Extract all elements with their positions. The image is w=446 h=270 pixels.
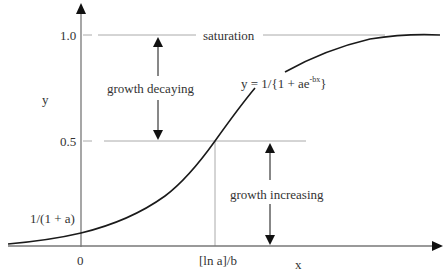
growth-decaying-label: growth decaying xyxy=(107,82,194,95)
y-intercept-label: 1/(1 + a) xyxy=(30,212,75,225)
arrow-up-icon xyxy=(153,37,163,47)
y-tick-0-5: 0.5 xyxy=(60,135,76,148)
y-tick-1: 1.0 xyxy=(60,29,76,42)
arrow-down-icon xyxy=(265,235,275,245)
saturation-label: saturation xyxy=(203,29,254,42)
x-tick-0: 0 xyxy=(77,254,84,267)
y-axis-arrow-icon xyxy=(76,3,86,14)
growth-increasing-label: growth increasing xyxy=(230,188,324,201)
x-axis-arrow-icon xyxy=(432,241,443,251)
equation-suffix: } xyxy=(320,76,326,91)
y-axis-label: y xyxy=(42,93,49,106)
equation-exponent: -bx xyxy=(310,75,321,84)
arrow-down-icon xyxy=(153,130,163,140)
x-tick-inflection: [ln a]/b xyxy=(199,254,237,267)
equation-prefix: y = 1/{1 + ae xyxy=(241,76,310,91)
equation-label: y = 1/{1 + ae-bx} xyxy=(241,76,326,90)
arrow-up-icon xyxy=(265,143,275,153)
x-axis-label: x xyxy=(295,258,302,270)
